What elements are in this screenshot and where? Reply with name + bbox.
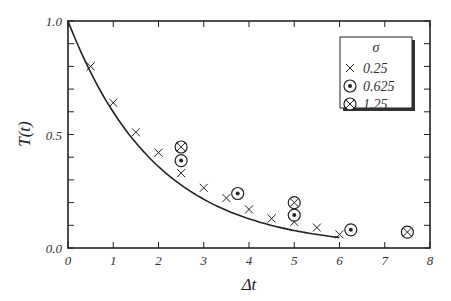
- cross-marker: [177, 169, 185, 177]
- y-tick-labels: 0.00.51.0: [46, 14, 63, 256]
- circle-cross-marker: [344, 98, 356, 110]
- circle-dot-marker: [232, 188, 244, 200]
- cross-marker: [222, 194, 230, 202]
- circle-cross-marker: [175, 141, 187, 153]
- cross-marker: [268, 214, 276, 222]
- circle-dot-marker: [288, 209, 300, 221]
- y-axis-label: T(t): [15, 121, 34, 147]
- legend-entry-label: 0.625: [363, 79, 395, 94]
- y-tick-label: 0.0: [46, 241, 63, 256]
- x-tick-label: 1: [110, 253, 117, 268]
- circle-dot-marker: [175, 155, 187, 167]
- chart: 012345678 0.00.51.0 Δt T(t) σ0.250.6251.…: [0, 0, 451, 301]
- x-tick-label: 3: [200, 253, 208, 268]
- cross-marker: [109, 99, 117, 107]
- x-tick-label: 5: [291, 253, 298, 268]
- cross-marker: [200, 184, 208, 192]
- circle-dot-marker: [345, 224, 357, 236]
- circle-cross-marker: [401, 226, 413, 238]
- legend-title: σ: [373, 40, 381, 55]
- x-tick-label: 0: [65, 253, 72, 268]
- circle-cross-marker: [288, 197, 300, 209]
- legend-entry-label: 1.25: [363, 97, 388, 112]
- x-tick-label: 8: [427, 253, 434, 268]
- legend-entry-label: 0.25: [363, 61, 388, 76]
- circle-dot-marker: [344, 80, 356, 92]
- legend: σ0.250.6251.25: [340, 37, 415, 112]
- x-tick-label: 4: [246, 253, 253, 268]
- y-tick-label: 1.0: [46, 14, 63, 29]
- x-tick-label: 2: [155, 253, 162, 268]
- x-axis-label: Δt: [241, 275, 258, 294]
- y-tick-label: 0.5: [46, 128, 63, 143]
- cross-marker: [313, 224, 321, 232]
- x-tick-label: 6: [336, 253, 343, 268]
- x-tick-labels: 012345678: [65, 253, 434, 268]
- x-tick-label: 7: [382, 253, 389, 268]
- cross-marker: [245, 205, 253, 213]
- cross-marker: [155, 149, 163, 157]
- cross-marker: [132, 128, 140, 136]
